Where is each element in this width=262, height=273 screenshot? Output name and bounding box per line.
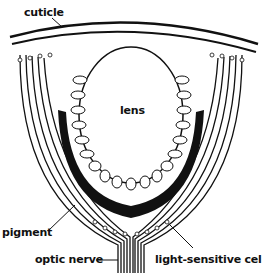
eye-diagram: cuticle lens pigment optic nerve light-s… [0,0,262,273]
label-lens: lens [120,104,145,117]
label-light-sensitive-cells: light-sensitive cells [155,253,262,266]
label-cuticle: cuticle [24,6,64,19]
cuticle-outer-line [10,23,258,44]
label-pigment: pigment [2,226,52,239]
label-optic-nerve: optic nerve [35,253,103,266]
